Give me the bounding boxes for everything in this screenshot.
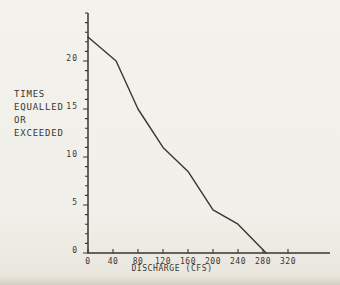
chart-canvas	[0, 0, 340, 285]
y-tick-label: 10	[52, 150, 78, 159]
x-axis-title: DISCHARGE (CFS)	[131, 264, 212, 273]
x-tick-label: 80	[133, 257, 144, 266]
y-axis-title-line-3: OR	[14, 114, 64, 127]
x-tick-label: 40	[108, 257, 119, 266]
y-axis-title: TIMES EQUALLED OR EXCEEDED	[14, 88, 64, 140]
x-tick-label: 240	[230, 257, 246, 266]
x-tick-label: 160	[180, 257, 196, 266]
flow-duration-chart: TIMES EQUALLED OR EXCEEDED DISCHARGE (CF…	[0, 0, 340, 285]
x-tick-label: 320	[280, 257, 296, 266]
y-axis-title-line-4: EXCEEDED	[14, 127, 64, 140]
y-tick-label: 20	[52, 54, 78, 63]
x-tick-label: 0	[85, 257, 90, 266]
x-tick-label: 280	[255, 257, 271, 266]
y-axis-title-line-1: TIMES	[14, 88, 64, 101]
flow-duration-curve	[88, 37, 266, 253]
y-tick-label: 15	[52, 102, 78, 111]
x-tick-label: 120	[155, 257, 171, 266]
x-tick-label: 200	[205, 257, 221, 266]
axes-lines	[88, 13, 330, 253]
y-tick-label: 0	[52, 246, 78, 255]
y-tick-label: 5	[52, 198, 78, 207]
